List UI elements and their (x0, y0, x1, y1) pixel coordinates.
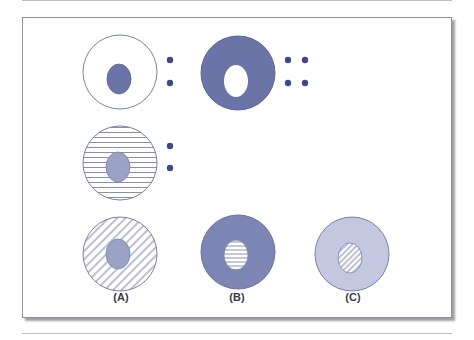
diagram-canvas: (A) (B) (C) (0, 0, 474, 340)
dot (167, 165, 173, 171)
hollow-cell-small-nucleus (83, 35, 173, 109)
dot (285, 80, 291, 86)
dot (167, 57, 173, 63)
label-b: (B) (229, 291, 245, 303)
dot (302, 57, 308, 63)
dot (285, 57, 291, 63)
panel-a (83, 217, 157, 291)
dot (302, 80, 308, 86)
panel-c (315, 217, 389, 291)
label-a: (A) (113, 291, 129, 303)
panel-b (201, 215, 275, 289)
dark-ring-white-center (201, 36, 308, 110)
label-c: (C) (345, 291, 361, 303)
dot (167, 143, 173, 149)
dot (167, 80, 173, 86)
striped-cell-gray-nucleus (83, 126, 173, 200)
